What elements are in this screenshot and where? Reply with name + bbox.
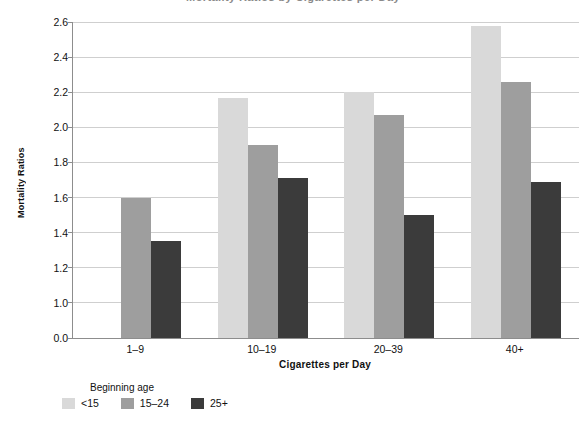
bar-group <box>326 22 453 338</box>
y-axis-tick-label: 2.2 <box>34 87 68 98</box>
bar-series-container <box>73 22 579 338</box>
bar[interactable] <box>501 82 531 338</box>
y-axis-tick-label: 2.4 <box>34 52 68 63</box>
plot-area <box>72 22 579 339</box>
x-axis-tick-label: 10–19 <box>247 343 276 355</box>
chart-figure: Mortality Ratios by Cigarettes per Day M… <box>0 0 586 423</box>
legend-item[interactable]: <15 <box>62 397 99 409</box>
legend-swatch-icon <box>191 398 204 409</box>
legend-swatch-icon <box>121 398 134 409</box>
bar[interactable] <box>121 198 151 338</box>
legend-items: <1515–2425+ <box>62 397 342 409</box>
bar[interactable] <box>531 182 561 338</box>
legend: Beginning age <1515–2425+ <box>62 382 342 409</box>
x-axis-tick-label: 20–39 <box>374 343 403 355</box>
x-axis-tick-label: 1–9 <box>126 343 144 355</box>
bar[interactable] <box>218 98 248 339</box>
x-axis-tick-labels: 1–910–1920–3940+ <box>72 343 578 359</box>
y-axis-tick-labels: 0.01.01.21.41.61.82.02.22.42.6 <box>30 22 68 338</box>
bar[interactable] <box>151 241 181 338</box>
bar[interactable] <box>374 115 404 338</box>
legend-label: 25+ <box>210 397 228 409</box>
x-axis-tick-label: 40+ <box>506 343 524 355</box>
bar[interactable] <box>471 26 501 338</box>
y-axis-tick-label: 2.0 <box>34 122 68 133</box>
bar[interactable] <box>344 92 374 338</box>
bar[interactable] <box>248 145 278 338</box>
chart-title: Mortality Ratios by Cigarettes per Day <box>0 0 586 3</box>
y-axis-tick-label: 1.6 <box>34 192 68 203</box>
y-axis-tick-label: 1.2 <box>34 262 68 273</box>
bar[interactable] <box>278 178 308 338</box>
legend-item[interactable]: 25+ <box>191 397 228 409</box>
legend-label: 15–24 <box>140 397 169 409</box>
y-axis-tick-label: 1.0 <box>34 297 68 308</box>
legend-title: Beginning age <box>90 382 342 393</box>
legend-label: <15 <box>81 397 99 409</box>
x-axis-title: Cigarettes per Day <box>72 359 578 370</box>
bar-group <box>453 22 580 338</box>
bar-group <box>200 22 327 338</box>
y-axis-tick-label: 1.8 <box>34 157 68 168</box>
bar[interactable] <box>404 215 434 338</box>
y-axis-tick-label: 1.4 <box>34 227 68 238</box>
y-axis-title: Mortality Ratios <box>14 118 28 248</box>
y-axis-tick-label: 0.0 <box>34 333 68 344</box>
bar-group <box>73 22 200 338</box>
legend-swatch-icon <box>62 398 75 409</box>
y-axis-tick-label: 2.6 <box>34 17 68 28</box>
legend-item[interactable]: 15–24 <box>121 397 169 409</box>
